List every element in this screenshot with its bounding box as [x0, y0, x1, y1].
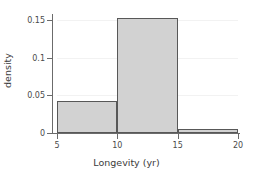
x-tick-mark — [57, 134, 58, 139]
x-tick-label: 20 — [233, 141, 243, 150]
histogram-bar — [178, 129, 238, 133]
y-tick-label: 0.1 — [32, 53, 45, 62]
y-tick-label: 0.05 — [27, 91, 45, 100]
histogram-bar — [117, 18, 177, 133]
y-axis-title: density — [2, 41, 13, 101]
y-tick-mark — [47, 20, 52, 21]
y-axis-line — [52, 14, 53, 134]
x-tick-label: 15 — [173, 141, 183, 150]
x-tick-mark — [117, 134, 118, 139]
x-tick-mark — [238, 134, 239, 139]
x-axis-line — [52, 133, 240, 134]
x-tick-mark — [178, 134, 179, 139]
plot-area — [57, 12, 238, 133]
histogram-bar — [57, 101, 117, 133]
y-tick-label: 0.15 — [27, 16, 45, 25]
y-tick-mark — [47, 95, 52, 96]
y-tick-label: 0 — [40, 129, 45, 138]
x-axis-title: Longevity (yr) — [0, 157, 253, 168]
x-tick-label: 10 — [112, 141, 122, 150]
y-tick-mark — [47, 58, 52, 59]
x-tick-label: 5 — [54, 141, 59, 150]
density-histogram-chart: density 00.050.10.15 5101520 Longevity (… — [0, 0, 253, 178]
y-tick-mark — [47, 133, 52, 134]
